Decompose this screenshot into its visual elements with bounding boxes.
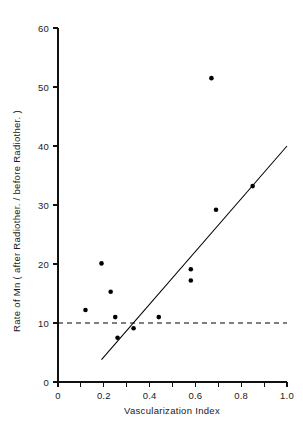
y-tick-label: 10 [38, 318, 49, 329]
data-point [214, 207, 219, 212]
x-tick-label: 0.8 [234, 390, 248, 401]
data-points [83, 76, 255, 340]
y-tick-label: 60 [38, 23, 49, 34]
y-tick-label: 20 [38, 259, 49, 270]
regression-line [102, 146, 287, 360]
data-point [113, 315, 118, 320]
y-axis-ticks: 0102030405060 [38, 23, 58, 388]
data-point [108, 289, 113, 294]
data-point [250, 184, 255, 189]
data-point [99, 261, 104, 266]
y-axis-title: Rate of Mn ( after Radiother. / before R… [11, 110, 22, 332]
x-axis-title: Vascularization Index [124, 405, 220, 416]
data-point [115, 335, 120, 340]
x-tick-label: 0.4 [143, 390, 157, 401]
data-point [209, 76, 214, 81]
y-tick-label: 50 [38, 82, 49, 93]
x-axis-ticks: 00.20.40.60.81.0 [55, 382, 294, 401]
data-point [189, 267, 194, 272]
data-point [83, 308, 88, 313]
scatter-plot-figure: 0102030405060 00.20.40.60.81.0 Vasculari… [0, 0, 303, 429]
x-tick-label: 0 [55, 390, 60, 401]
x-tick-label: 0.2 [97, 390, 111, 401]
y-tick-label: 30 [38, 200, 49, 211]
x-tick-label: 0.6 [188, 390, 202, 401]
data-point [156, 315, 161, 320]
x-tick-label: 1.0 [280, 390, 294, 401]
data-point [131, 326, 136, 331]
y-tick-label: 40 [38, 141, 49, 152]
data-point [189, 278, 194, 283]
y-tick-label: 0 [44, 377, 49, 388]
chart-canvas: 0102030405060 00.20.40.60.81.0 Vasculari… [0, 0, 303, 429]
